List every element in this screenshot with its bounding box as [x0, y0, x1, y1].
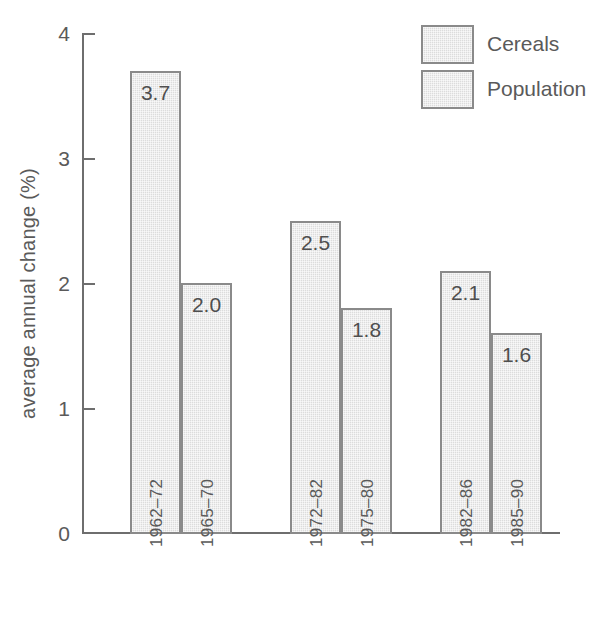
y-axis-tick-label-4: 4 [42, 23, 70, 44]
y-axis-tick-label-3: 3 [42, 148, 70, 169]
x-axis-tick-label-1972-82: 1972–82 [308, 457, 325, 547]
x-axis-tick-label-1965-70: 1965–70 [199, 457, 216, 547]
x-axis-tick-label-1985-90: 1985–90 [509, 457, 526, 547]
x-axis-tick-label-1975-80: 1975–80 [359, 457, 376, 547]
bar-value-label: 1.8 [343, 319, 390, 340]
y-axis-tick-4 [84, 33, 95, 35]
bar-value-label: 2.1 [442, 282, 489, 303]
x-axis-tick-label-1962-72: 1962–72 [148, 457, 165, 547]
y-axis-tick-3 [84, 158, 95, 160]
y-axis-tick-2 [84, 283, 95, 285]
legend-label-cereals: Cereals [487, 33, 559, 54]
legend-swatch-cereals-icon [421, 25, 474, 64]
y-axis-tick-label-1: 1 [42, 398, 70, 419]
legend-swatch-population-icon [421, 70, 474, 109]
legend-label-population: Population [487, 78, 586, 99]
bar-value-label: 1.6 [493, 344, 540, 365]
y-axis-tick-1 [84, 408, 95, 410]
y-axis-tick-label-0: 0 [42, 523, 70, 544]
bar-value-label: 2.0 [183, 294, 230, 315]
x-axis-tick-label-1982-86: 1982–86 [458, 457, 475, 547]
bar-value-label: 2.5 [292, 232, 339, 253]
bar-value-label: 3.7 [132, 82, 179, 103]
bar-chart: 4 3 2 1 0 average annual change (%) 3.7 … [0, 0, 600, 643]
y-axis-title: average annual change (%) [17, 114, 40, 474]
y-axis-tick-label-2: 2 [42, 273, 70, 294]
